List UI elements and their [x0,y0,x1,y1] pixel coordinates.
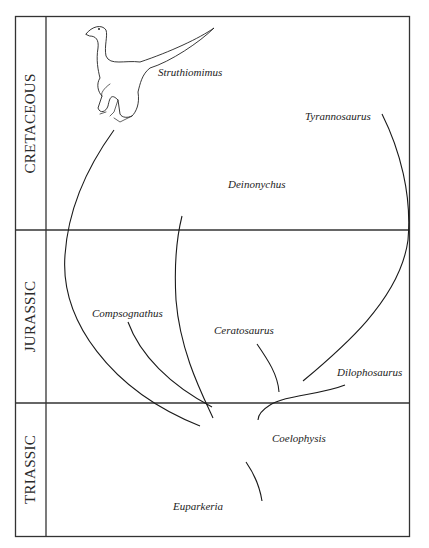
era-jurassic-text: JURASSIC [22,281,39,353]
diagram-canvas [0,0,429,548]
label-ceratosaurus: Ceratosaurus [214,324,274,336]
lineage-euparkeria [246,462,262,501]
era-label-jurassic: JURASSIC [15,230,46,403]
label-compsognathus: Compsognathus [92,307,163,319]
era-triassic-text: TRIASSIC [22,435,39,504]
era-grid [16,17,410,537]
lineage-struthiomimus [65,130,200,426]
label-struthiomimus: Struthiomimus [158,66,222,78]
outer-border [16,17,410,537]
label-euparkeria: Euparkeria [173,500,223,512]
lineage-ceratosaurus [257,344,279,392]
era-label-cretaceous: CRETACEOUS [15,16,46,230]
lineage-tyrannosaurus [303,114,409,381]
era-label-triassic: TRIASSIC [15,403,46,536]
dinosaur-evolution-diagram: CRETACEOUS JURASSIC TRIASSIC Struthiomim… [0,0,429,548]
label-coelophysis: Coelophysis [272,432,326,444]
label-dilophosaurus: Dilophosaurus [337,366,402,378]
label-tyrannosaurus: Tyrannosaurus [305,110,371,122]
era-cretaceous-text: CRETACEOUS [22,73,39,173]
label-deinonychus: Deinonychus [228,178,285,190]
